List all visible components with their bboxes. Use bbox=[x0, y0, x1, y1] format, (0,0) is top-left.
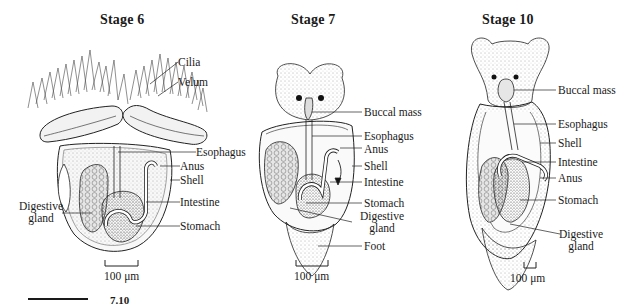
s7-label-intestine: Intestine bbox=[364, 176, 404, 188]
s7-label-stomach: Stomach bbox=[364, 197, 404, 209]
s6-label-cilia: Cilia bbox=[178, 56, 200, 68]
s7-label-gland: gland bbox=[360, 222, 404, 234]
s7-label-esophagus: Esophagus bbox=[364, 130, 414, 142]
s7-label-buccal-mass: Buccal mass bbox=[364, 106, 422, 118]
stage7-title: Stage 7 bbox=[291, 12, 336, 28]
s7-label-anus: Anus bbox=[364, 143, 388, 155]
s6-scale-label: 100 μm bbox=[104, 270, 139, 282]
stage6-title: Stage 6 bbox=[100, 12, 145, 28]
s7-label-digestive-gland: Digestive gland bbox=[360, 210, 404, 234]
s10-label-stomach: Stomach bbox=[558, 194, 598, 206]
s10-label-esophagus: Esophagus bbox=[558, 118, 608, 130]
s10-label-digestive-gland: Digestive gland bbox=[556, 228, 606, 252]
s7-label-digestive: Digestive bbox=[360, 210, 404, 222]
s6-label-velum: Velum bbox=[178, 76, 208, 88]
s10-scale-label: 100 μm bbox=[510, 272, 545, 284]
caption-rule bbox=[28, 298, 88, 300]
s6-label-gland: gland bbox=[16, 212, 66, 224]
figure-caption-fragment: 7.10 bbox=[110, 294, 129, 306]
s10-label-buccal-mass: Buccal mass bbox=[558, 84, 616, 96]
s10-label-anus: Anus bbox=[558, 172, 582, 184]
s7-scale-label: 100 μm bbox=[294, 270, 329, 282]
s7-label-shell: Shell bbox=[364, 160, 388, 172]
s6-label-stomach: Stomach bbox=[180, 220, 220, 232]
s6-label-esophagus: Esophagus bbox=[196, 146, 246, 158]
s6-label-digestive: Digestive bbox=[16, 200, 66, 212]
s6-label-intestine: Intestine bbox=[180, 196, 220, 208]
s6-label-anus: Anus bbox=[180, 160, 204, 172]
s6-label-digestive-gland: Digestive gland bbox=[16, 200, 66, 224]
s10-label-intestine: Intestine bbox=[558, 156, 598, 168]
stage7-drawing bbox=[259, 64, 362, 276]
s10-label-gland: gland bbox=[556, 240, 606, 252]
s10-label-shell: Shell bbox=[558, 137, 582, 149]
s10-label-digestive: Digestive bbox=[556, 228, 606, 240]
stage10-drawing bbox=[466, 38, 560, 290]
s7-label-foot: Foot bbox=[364, 240, 385, 252]
stage10-title: Stage 10 bbox=[482, 12, 534, 28]
s6-label-shell: Shell bbox=[180, 174, 204, 186]
